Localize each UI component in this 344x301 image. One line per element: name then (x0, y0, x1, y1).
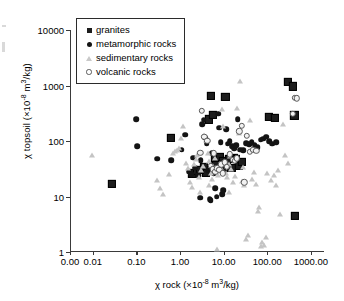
legend-item-metamorphic-rocks: metamorphic rocks (82, 37, 176, 51)
y-axis-title-text: χ topsoil (×10-8 m3/kg) (21, 63, 32, 159)
filled-circle-icon (82, 42, 96, 47)
data-point-sedimentary-rocks (271, 173, 277, 178)
x-tick-label: 100.00 (253, 256, 282, 267)
data-point-sedimentary-rocks (180, 123, 186, 128)
data-point-metamorphic-rocks (188, 172, 194, 178)
data-point-sedimentary-rocks (264, 170, 270, 175)
x-tick-mark (267, 251, 268, 255)
data-point-granites (108, 180, 116, 188)
data-point-sedimentary-rocks (191, 162, 197, 167)
data-point-sedimentary-rocks (268, 177, 274, 182)
data-point-sedimentary-rocks (273, 183, 279, 188)
data-point-sedimentary-rocks (230, 180, 236, 185)
data-point-sedimentary-rocks (176, 145, 182, 150)
y-tick-mark (66, 141, 70, 142)
data-point-volcanic-rocks (293, 95, 299, 101)
y-tick-label: 100 (48, 136, 64, 147)
data-point-sedimentary-rocks (232, 174, 238, 179)
x-tick-label: 0.00 (61, 256, 80, 267)
open-triangle-icon (82, 56, 96, 61)
data-point-sedimentary-rocks (209, 176, 215, 181)
data-point-sedimentary-rocks (219, 107, 225, 112)
y-tick-mark (66, 197, 70, 198)
x-tick-mark (136, 251, 137, 255)
data-point-volcanic-rocks (244, 132, 250, 138)
data-point-metamorphic-rocks (168, 157, 174, 163)
data-point-volcanic-rocks (197, 149, 203, 155)
data-point-metamorphic-rocks (135, 144, 141, 150)
data-point-sedimentary-rocks (196, 175, 202, 180)
x-axis-title: χ rock (×10-8 m3/kg) (70, 278, 324, 290)
data-point-sedimentary-rocks (200, 163, 206, 168)
open-circle-icon (82, 69, 96, 74)
legend-item-granites: granites (82, 23, 176, 37)
data-point-sedimentary-rocks (89, 153, 95, 158)
legend-item-label: metamorphic rocks (96, 39, 176, 49)
data-point-sedimentary-rocks (183, 161, 189, 166)
data-point-sedimentary-rocks (166, 172, 172, 177)
plot-area: 110100100010000 0.000.010.101.0010.00100… (70, 30, 324, 252)
legend-item-label: volcanic rocks (96, 67, 156, 77)
data-point-sedimentary-rocks (185, 166, 191, 171)
scatter-plot-figure: χ topsoil (×10-8 m3/kg) χ rock (×10-8 m3… (0, 0, 344, 301)
y-tick-label: 10 (53, 191, 64, 202)
legend-item-label: sedimentary rocks (96, 53, 173, 63)
data-point-metamorphic-rocks (201, 117, 207, 123)
data-point-sedimentary-rocks (263, 234, 269, 239)
y-tick-label: 10000 (38, 25, 64, 36)
data-point-sedimentary-rocks (253, 181, 259, 186)
data-point-sedimentary-rocks (247, 117, 253, 122)
data-point-granites (289, 82, 297, 90)
data-point-sedimentary-rocks (261, 242, 267, 247)
data-point-metamorphic-rocks (197, 195, 203, 201)
y-tick-mark (66, 86, 70, 87)
data-point-sedimentary-rocks (256, 204, 262, 209)
data-point-metamorphic-rocks (134, 116, 140, 122)
data-point-volcanic-rocks (236, 128, 242, 134)
x-tick-mark (224, 251, 225, 255)
data-point-granites (291, 212, 299, 220)
data-point-sedimentary-rocks (282, 153, 288, 158)
data-point-sedimentary-rocks (198, 168, 204, 173)
data-point-metamorphic-rocks (218, 139, 224, 145)
legend-item-sedimentary-rocks: sedimentary rocks (82, 51, 176, 65)
data-point-sedimentary-rocks (178, 135, 184, 140)
data-point-sedimentary-rocks (226, 190, 232, 195)
data-point-sedimentary-rocks (160, 192, 166, 197)
data-point-sedimentary-rocks (277, 212, 283, 217)
legend-item-label: granites (96, 25, 130, 35)
data-point-sedimentary-rocks (214, 246, 220, 251)
x-tick-mark (180, 251, 181, 255)
data-point-metamorphic-rocks (235, 116, 241, 122)
data-point-metamorphic-rocks (212, 186, 218, 192)
scan-artifact (2, 42, 5, 52)
x-tick-mark (311, 251, 312, 255)
x-tick-mark (70, 251, 71, 255)
data-point-sedimentary-rocks (154, 177, 160, 182)
x-tick-mark (93, 251, 94, 255)
y-tick-mark (66, 30, 70, 31)
data-point-sedimentary-rocks (205, 151, 211, 156)
data-point-volcanic-rocks (239, 122, 245, 128)
data-point-granites (207, 91, 215, 99)
data-point-sedimentary-rocks (280, 122, 286, 127)
x-tick-label: 10.00 (212, 256, 236, 267)
filled-square-icon (82, 28, 96, 33)
data-point-sedimentary-rocks (197, 190, 203, 195)
y-tick-label: 1000 (43, 80, 64, 91)
data-point-sedimentary-rocks (206, 183, 212, 188)
data-point-sedimentary-rocks (251, 169, 257, 174)
data-point-metamorphic-rocks (273, 139, 279, 145)
data-point-volcanic-rocks (253, 148, 259, 154)
data-point-granites (271, 114, 279, 122)
data-point-sedimentary-rocks (220, 123, 226, 128)
data-point-sedimentary-rocks (234, 105, 240, 110)
data-point-granites (167, 134, 175, 142)
x-axis-title-text: χ rock (×10-8 m3/kg) (155, 279, 239, 290)
legend: granitesmetamorphic rockssedimentary roc… (76, 18, 185, 84)
data-point-sedimentary-rocks (240, 165, 246, 170)
data-point-sedimentary-rocks (237, 79, 243, 84)
scan-artifact (2, 25, 6, 27)
data-point-sedimentary-rocks (285, 161, 291, 166)
data-point-sedimentary-rocks (275, 168, 281, 173)
